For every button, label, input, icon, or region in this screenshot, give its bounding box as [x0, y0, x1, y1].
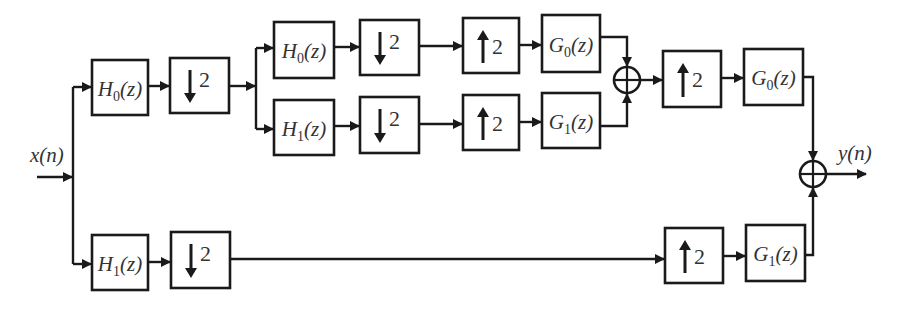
input-label: x(n): [29, 143, 64, 167]
block-frame: [463, 95, 519, 150]
wire-g1-sum: [600, 94, 627, 126]
filter-block-h1_l2: H1(z): [274, 100, 334, 155]
diagram-canvas: H0(z)2H0(z)22G0(z)H1(z)22G1(z)2G0(z)H1(z…: [0, 0, 901, 310]
blocks: H0(z)2H0(z)22G0(z)H1(z)22G1(z)2G0(z)H1(z…: [92, 15, 805, 290]
downsample-block-dn_l1_bot: 2: [171, 232, 230, 288]
filter-bank-diagram: H0(z)2H0(z)22G0(z)H1(z)22G1(z)2G0(z)H1(z…: [0, 0, 901, 310]
upsample-block-up_l2_a: 2: [463, 18, 519, 73]
filter-block-h0_l1: H0(z): [92, 60, 148, 115]
filter-block-g0_l1: G0(z): [744, 49, 803, 105]
summing-junction-icon: [614, 67, 640, 93]
filter-block-g0_l2: G0(z): [542, 15, 600, 72]
filter-label: H0(z): [281, 39, 326, 66]
filter-label: H1(z): [97, 252, 142, 279]
rate-factor: 2: [492, 34, 503, 59]
filter-label: G1(z): [549, 110, 593, 137]
filter-block-g1_l2: G1(z): [542, 93, 600, 148]
filter-label: H0(z): [97, 77, 142, 104]
filter-label: G1(z): [753, 242, 797, 269]
filter-label: G0(z): [751, 66, 795, 93]
rate-factor: 2: [200, 241, 211, 266]
downsample-block-dn_l1_top: 2: [170, 58, 229, 113]
filter-block-h1_l1: H1(z): [92, 235, 148, 290]
rate-factor: 2: [389, 29, 400, 54]
filter-label: H1(z): [281, 117, 326, 144]
upsample-block-up_l2_b: 2: [463, 95, 519, 150]
filter-label: G0(z): [549, 33, 593, 60]
connections: [37, 37, 866, 264]
upsample-block-up_l1_top: 2: [663, 51, 721, 107]
wire-g0l1-out: [803, 77, 813, 160]
block-frame: [463, 18, 519, 73]
downsample-block-dn_l2_a: 2: [360, 20, 419, 75]
rate-factor: 2: [389, 106, 400, 131]
upsample-block-up_l1_bot: 2: [665, 228, 723, 283]
downsample-block-dn_l2_b: 2: [360, 97, 419, 153]
summing-junction-icon: [800, 161, 826, 187]
output-label: y(n): [836, 141, 872, 165]
rate-factor: 2: [199, 67, 210, 92]
filter-block-h0_l2: H0(z): [274, 22, 334, 78]
rate-factor: 2: [492, 111, 503, 136]
filter-block-g1_l1: G1(z): [746, 225, 805, 281]
rate-factor: 2: [692, 67, 703, 92]
wire-g0-sum: [600, 37, 627, 66]
rate-factor: 2: [694, 244, 705, 269]
